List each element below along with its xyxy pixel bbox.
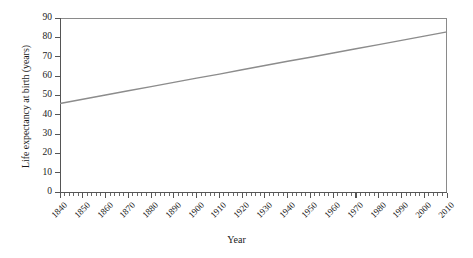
x-tick-minor xyxy=(169,193,170,196)
x-tick xyxy=(196,193,197,198)
x-tick-label: 1980 xyxy=(362,200,387,225)
x-tick-minor xyxy=(192,193,193,196)
x-tick-label: 1910 xyxy=(203,200,228,225)
x-tick-minor xyxy=(346,193,347,196)
x-tick-minor xyxy=(415,193,416,196)
x-tick-minor xyxy=(255,193,256,196)
x-tick-minor xyxy=(87,193,88,196)
x-tick-label: 1870 xyxy=(112,200,137,225)
x-tick-minor xyxy=(228,193,229,196)
x-tick-minor xyxy=(237,193,238,196)
x-tick-minor xyxy=(91,193,92,196)
x-tick-minor xyxy=(374,193,375,196)
x-axis-title: Year xyxy=(0,234,473,245)
x-tick-minor xyxy=(305,193,306,196)
x-tick-minor xyxy=(78,193,79,196)
x-tick xyxy=(424,193,425,198)
y-tick-label: 40 xyxy=(22,110,52,120)
x-tick-minor xyxy=(260,193,261,196)
x-tick-label: 1970 xyxy=(340,200,365,225)
y-tick-label: 30 xyxy=(22,129,52,139)
x-tick-minor xyxy=(233,193,234,196)
x-tick-minor xyxy=(296,193,297,196)
x-tick-minor xyxy=(178,193,179,196)
x-tick-minor xyxy=(273,193,274,196)
x-tick-minor xyxy=(141,193,142,196)
x-tick-minor xyxy=(146,193,147,196)
x-tick-minor xyxy=(119,193,120,196)
x-tick-minor xyxy=(223,193,224,196)
x-tick-label: 1940 xyxy=(271,200,296,225)
series-line xyxy=(60,32,447,104)
x-tick-minor xyxy=(283,193,284,196)
x-tick-minor xyxy=(369,193,370,196)
x-tick xyxy=(128,193,129,198)
x-tick xyxy=(60,193,61,198)
x-tick-minor xyxy=(187,193,188,196)
x-tick-label: 1890 xyxy=(157,200,182,225)
x-tick xyxy=(242,193,243,198)
x-tick-minor xyxy=(269,193,270,196)
x-tick-minor xyxy=(406,193,407,196)
x-tick-minor xyxy=(210,193,211,196)
x-tick-minor xyxy=(328,193,329,196)
x-tick xyxy=(151,193,152,198)
x-tick-minor xyxy=(251,193,252,196)
x-tick-minor xyxy=(278,193,279,196)
x-tick-minor xyxy=(292,193,293,196)
x-tick-label: 1880 xyxy=(135,200,160,225)
x-tick-label: 1860 xyxy=(89,200,114,225)
x-tick-minor xyxy=(433,193,434,196)
x-tick-minor xyxy=(182,193,183,196)
x-tick-minor xyxy=(324,193,325,196)
y-tick-label: 60 xyxy=(22,71,52,81)
x-tick-minor xyxy=(155,193,156,196)
x-tick-minor xyxy=(419,193,420,196)
y-tick-label: 0 xyxy=(22,187,52,197)
x-tick xyxy=(378,193,379,198)
x-tick-minor xyxy=(100,193,101,196)
x-tick-minor xyxy=(351,193,352,196)
x-tick-label: 1900 xyxy=(180,200,205,225)
x-axis-line xyxy=(60,192,447,193)
x-tick xyxy=(287,193,288,198)
line-chart: Life expectancy at birth (years) 0102030… xyxy=(0,0,473,258)
x-tick-minor xyxy=(123,193,124,196)
y-tick-label: 20 xyxy=(22,148,52,158)
x-tick xyxy=(173,193,174,198)
x-tick-minor xyxy=(64,193,65,196)
x-tick xyxy=(333,193,334,198)
y-tick-label: 70 xyxy=(22,52,52,62)
x-tick-label: 2000 xyxy=(408,200,433,225)
x-tick-label: 1950 xyxy=(294,200,319,225)
x-tick-minor xyxy=(319,193,320,196)
x-tick-label: 1840 xyxy=(44,200,69,225)
y-tick-label: 10 xyxy=(22,168,52,178)
x-tick-minor xyxy=(314,193,315,196)
x-tick-minor xyxy=(73,193,74,196)
x-tick-minor xyxy=(132,193,133,196)
x-tick-minor xyxy=(205,193,206,196)
x-tick-minor xyxy=(69,193,70,196)
x-tick-label: 1920 xyxy=(226,200,251,225)
x-tick-minor xyxy=(392,193,393,196)
x-tick-minor xyxy=(437,193,438,196)
x-tick-minor xyxy=(246,193,247,196)
x-tick-label: 1990 xyxy=(385,200,410,225)
y-tick-label: 50 xyxy=(22,90,52,100)
x-tick xyxy=(82,193,83,198)
x-tick-minor xyxy=(137,193,138,196)
x-tick-minor xyxy=(342,193,343,196)
x-tick xyxy=(401,193,402,198)
x-tick-minor xyxy=(360,193,361,196)
x-tick-minor xyxy=(410,193,411,196)
y-tick-label: 80 xyxy=(22,32,52,42)
x-tick-minor xyxy=(214,193,215,196)
x-tick xyxy=(105,193,106,198)
x-tick xyxy=(310,193,311,198)
y-tick-label: 90 xyxy=(22,13,52,23)
x-tick-minor xyxy=(160,193,161,196)
x-tick-label: 1960 xyxy=(317,200,342,225)
series-life-expectancy xyxy=(60,18,447,192)
x-tick-minor xyxy=(428,193,429,196)
